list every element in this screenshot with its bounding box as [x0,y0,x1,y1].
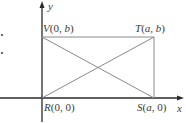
x-axis-arrow-icon [177,96,184,101]
point-label-R: R(0, 0) [44,102,75,113]
y-axis-arrow-icon [40,1,45,8]
x-axis-label: x [177,103,182,114]
point-S-coords: (a, 0) [143,101,167,113]
point-label-T: T(a, b) [135,23,165,34]
cutoff-text-fragment [1,34,3,36]
point-T-coords: (a, b) [141,22,165,34]
point-V-name: V [43,22,50,34]
point-V-coords: (0, b) [50,22,74,34]
point-R-name: R [44,101,51,113]
point-label-V: V(0, b) [43,23,74,34]
point-R-coords: (0, 0) [51,101,75,113]
cutoff-text-fragment [1,52,3,54]
y-axis-label: y [48,1,53,12]
rectangle-coordinate-diagram: y x V(0, b) T(a, b) R(0, 0) S(a, 0) [0,0,186,123]
point-label-S: S(a, 0) [137,102,166,113]
